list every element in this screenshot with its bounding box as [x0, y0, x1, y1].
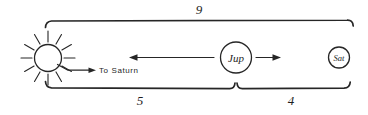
sun-ray [25, 45, 34, 51]
right-arrow [256, 54, 281, 61]
sun-ray [56, 72, 62, 82]
sun-ray [35, 35, 41, 45]
to-saturn-label: To Saturn [99, 66, 139, 75]
bottom-right-bracket-value: 4 [288, 93, 295, 108]
bottom-right-bracket [237, 82, 350, 88]
bottom-left-bracket [46, 82, 236, 89]
sun-ray [25, 66, 34, 72]
to-saturn-pointer [58, 65, 97, 74]
top-bracket-total [46, 20, 354, 27]
bottom-right-bracket-path [237, 82, 350, 88]
sun-disc [35, 45, 62, 72]
bottom-left-bracket-value: 5 [137, 93, 144, 108]
jupiter-label: Jup [228, 52, 244, 64]
top-bracket-value: 9 [196, 2, 203, 17]
sun-ray [56, 35, 62, 45]
bottom-left-bracket-path [46, 82, 236, 89]
distance-diagram: 9 To Saturn [0, 0, 368, 115]
to-saturn-arrow-line [58, 65, 90, 71]
left-arrow [129, 54, 214, 61]
right-arrow-head [273, 54, 282, 61]
left-arrow-head [129, 54, 138, 61]
to-saturn-arrow-head [89, 67, 97, 73]
sun-ray [62, 45, 72, 51]
sun-icon [21, 31, 75, 85]
saturn-label: Sat [334, 53, 346, 63]
sun-ray [35, 72, 41, 82]
diagram-canvas: 9 To Saturn [0, 0, 368, 115]
top-bracket-path [46, 20, 354, 27]
